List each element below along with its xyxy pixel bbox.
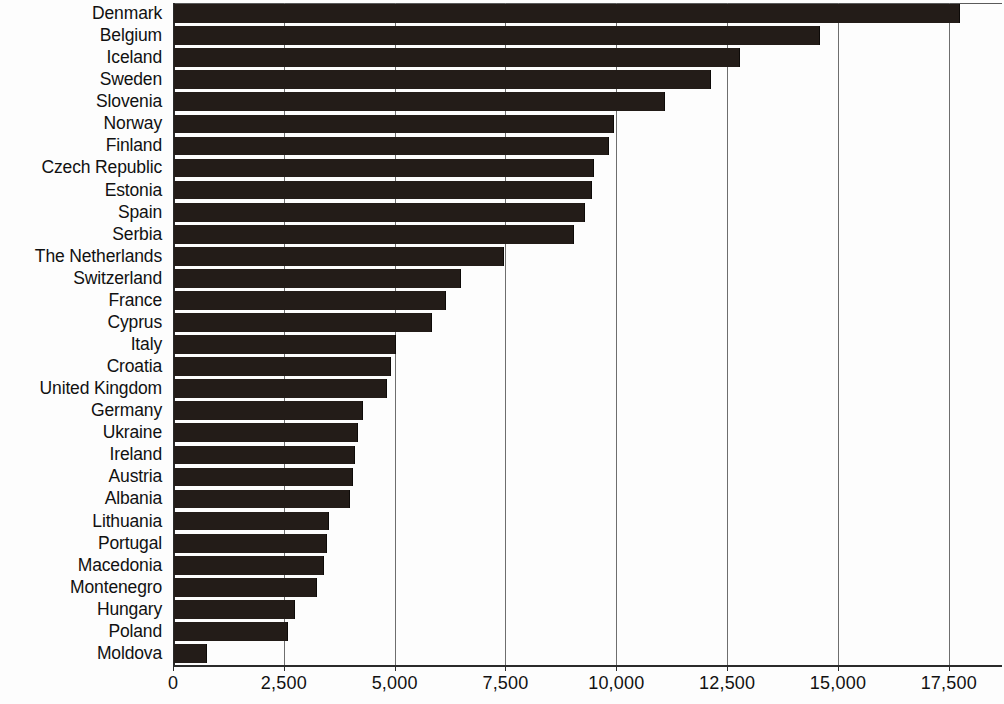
bar (174, 313, 432, 332)
category-label: Cyprus (107, 314, 162, 332)
tick-mark-2500 (284, 665, 285, 671)
category-label: Serbia (112, 226, 162, 244)
bar (174, 115, 614, 134)
x-axis-tick-labels: 02,5005,0007,50010,00012,50015,00017,500 (0, 674, 1004, 702)
category-label: Germany (91, 402, 162, 420)
category-label: Ukraine (103, 424, 162, 442)
x-tick-label: 17,500 (921, 674, 977, 692)
tick-mark-7500 (505, 665, 506, 671)
bar (174, 291, 446, 310)
category-label: Slovenia (96, 93, 162, 111)
x-tick-label: 0 (168, 674, 178, 692)
bar (174, 468, 353, 487)
bar (174, 578, 317, 597)
category-label: United Kingdom (40, 380, 162, 398)
category-label: Switzerland (73, 270, 162, 288)
x-tick-label: 12,500 (699, 674, 755, 692)
category-axis-labels: DenmarkBelgiumIcelandSwedenSloveniaNorwa… (0, 3, 168, 665)
bar (174, 26, 820, 45)
gridline-15000 (838, 3, 839, 665)
category-label: Belgium (100, 27, 162, 45)
bar (174, 512, 329, 531)
x-tick-label: 5,000 (372, 674, 418, 692)
category-label: Albania (105, 490, 162, 508)
category-label: France (108, 292, 162, 310)
bar (174, 269, 461, 288)
bar (174, 379, 387, 398)
category-label: Montenegro (70, 579, 162, 597)
bar (174, 137, 609, 156)
tick-mark-10000 (616, 665, 617, 671)
bar (174, 357, 391, 376)
tick-mark-15000 (838, 665, 839, 671)
bar (174, 4, 960, 23)
bar (174, 644, 207, 663)
bar (174, 48, 740, 67)
category-label: Ireland (110, 446, 162, 464)
bar (174, 423, 358, 442)
category-label: Poland (108, 623, 162, 641)
category-label: Croatia (107, 358, 162, 376)
tick-mark-0 (173, 665, 174, 671)
bar (174, 92, 665, 111)
bar (174, 335, 396, 354)
bar (174, 401, 363, 420)
bar (174, 534, 327, 553)
plot-area (173, 3, 1002, 665)
category-label: Iceland (107, 49, 162, 67)
category-label: Norway (104, 115, 162, 133)
category-label: Italy (131, 336, 162, 354)
x-tick-label: 10,000 (588, 674, 644, 692)
category-label: Sweden (100, 71, 162, 89)
tick-mark-17500 (949, 665, 950, 671)
category-label: Moldova (97, 645, 162, 663)
category-label: Lithuania (92, 513, 162, 531)
category-label: Austria (109, 468, 162, 486)
bar (174, 203, 585, 222)
x-axis-line (173, 665, 1002, 667)
bar (174, 225, 574, 244)
bar (174, 181, 592, 200)
tick-mark-5000 (395, 665, 396, 671)
bar (174, 159, 594, 178)
category-label: Denmark (92, 5, 162, 23)
x-tick-label: 7,500 (482, 674, 528, 692)
bar (174, 600, 295, 619)
bar (174, 622, 288, 641)
category-label: Portugal (98, 535, 162, 553)
bar (174, 490, 350, 509)
gridline-17500 (949, 3, 950, 665)
category-label: Hungary (97, 601, 162, 619)
category-label: Czech Republic (42, 159, 162, 177)
gridline-12500 (727, 3, 728, 665)
bar-chart: DenmarkBelgiumIcelandSwedenSloveniaNorwa… (0, 0, 1004, 704)
x-tick-label: 15,000 (810, 674, 866, 692)
bar (174, 70, 711, 89)
tick-mark-12500 (727, 665, 728, 671)
category-label: The Netherlands (35, 248, 162, 266)
category-label: Estonia (105, 182, 162, 200)
category-label: Macedonia (78, 557, 162, 575)
bar (174, 556, 324, 575)
category-label: Finland (106, 137, 162, 155)
x-tick-label: 2,500 (261, 674, 307, 692)
category-label: Spain (118, 204, 162, 222)
bar (174, 247, 504, 266)
bar (174, 446, 355, 465)
